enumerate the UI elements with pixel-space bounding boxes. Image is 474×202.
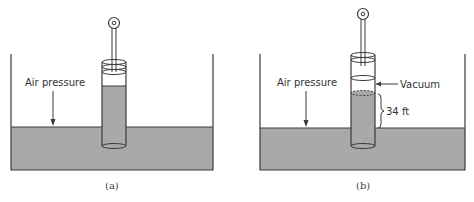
handle-ring-icon [358, 9, 369, 20]
piston [102, 65, 126, 87]
vacuum-label: Vacuum [400, 79, 440, 90]
caption-a: (a) [105, 180, 119, 191]
panel-a: Air pressure (a) [11, 18, 213, 192]
tube-water [102, 86, 126, 146]
panel-b: Vacuum 34 ft Air pressure (b) [260, 9, 465, 192]
height-brace-icon [378, 94, 384, 128]
suction-pump-diagram: Air pressure (a) Vacuum 34 [0, 0, 474, 202]
piston [351, 58, 375, 81]
caption-b: (b) [356, 180, 370, 191]
handle-ring-icon [109, 18, 120, 29]
air-pressure-label-a: Air pressure [25, 77, 85, 88]
height-label: 34 ft [386, 106, 409, 117]
air-pressure-label-b: Air pressure [277, 77, 337, 88]
tube-water [351, 93, 375, 146]
